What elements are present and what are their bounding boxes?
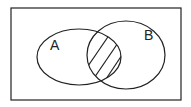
- intersection-hatch: [78, 20, 132, 88]
- set-a-label: A: [50, 37, 60, 53]
- set-b-label: B: [144, 27, 153, 43]
- venn-diagram: A B: [0, 0, 191, 107]
